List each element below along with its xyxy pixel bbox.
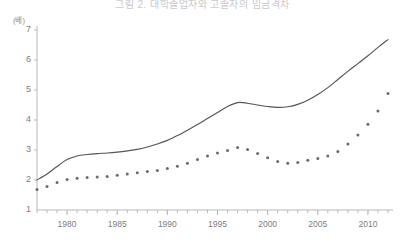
y-tick-label: 4 — [15, 115, 31, 124]
y-tick-label: 6 — [15, 55, 31, 64]
x-tick-label: 2010 — [348, 220, 388, 229]
x-tick-label: 1985 — [97, 220, 137, 229]
x-tick-label: 1990 — [147, 220, 187, 229]
series-solid-line — [37, 40, 388, 180]
x-tick-label: 2000 — [248, 220, 288, 229]
plot-area — [37, 30, 393, 210]
y-axis-label: (배) — [13, 14, 25, 25]
chart-container: 그림 2. 대학졸업자와 고졸자의 임금격차 (배) 1234567 19801… — [0, 0, 405, 243]
y-tick-label: 2 — [15, 175, 31, 184]
y-tick-label: 1 — [15, 205, 31, 214]
x-tick-label: 1980 — [47, 220, 87, 229]
chart-title: 그림 2. 대학졸업자와 고졸자의 임금격차 — [0, 0, 405, 11]
x-axis-ticks — [37, 210, 388, 215]
series-dotted-points — [36, 92, 390, 191]
chart-svg — [37, 30, 393, 210]
x-tick-label: 1995 — [198, 220, 238, 229]
y-tick-label: 7 — [15, 25, 31, 34]
y-tick-label: 5 — [15, 85, 31, 94]
y-tick-label: 3 — [15, 145, 31, 154]
x-tick-label: 2005 — [298, 220, 338, 229]
